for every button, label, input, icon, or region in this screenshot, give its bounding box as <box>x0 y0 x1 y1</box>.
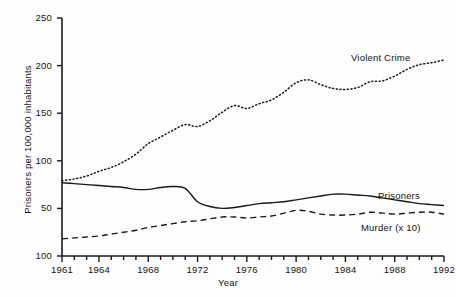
x-axis-tick-label: 1980 <box>276 264 316 275</box>
x-axis-ticks <box>62 256 444 262</box>
series-label-violent-crime: Violent Crime <box>351 52 410 63</box>
x-axis-tick-label: 1992 <box>424 264 456 275</box>
chart-container: 10050100150200250 1961196419681972197619… <box>0 0 456 297</box>
x-axis-tick-label: 1984 <box>325 264 365 275</box>
chart-series-group <box>62 60 444 239</box>
chart-plot-area <box>0 0 456 297</box>
x-axis-tick-label: 1961 <box>42 264 82 275</box>
y-axis-title: Prisoners per 100,000 inhabitants <box>22 55 33 225</box>
y-axis-tick-label: 100 <box>0 250 52 261</box>
x-axis-tick-label: 1964 <box>79 264 119 275</box>
y-axis-tick-label: 250 <box>0 12 52 23</box>
x-axis-tick-label: 1972 <box>178 264 218 275</box>
x-axis-title: Year <box>0 277 456 288</box>
series-label-murder: Murder (x 10) <box>361 222 421 233</box>
x-axis-tick-label: 1976 <box>227 264 267 275</box>
x-axis-tick-label: 1988 <box>375 264 415 275</box>
series-label-prisoners: Prisoners <box>378 190 420 201</box>
series-line-violent-crime <box>62 60 444 181</box>
x-axis-tick-label: 1968 <box>128 264 168 275</box>
